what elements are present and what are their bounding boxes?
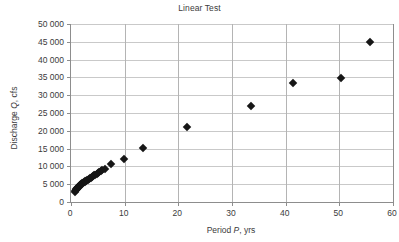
data-point-marker [247,102,255,110]
x-axis-tick [178,202,179,206]
chart-title: Linear Test [0,3,399,13]
gridline-vertical [393,24,394,202]
y-axis-tick [67,77,71,78]
y-axis-tick-label: 10 000 [2,161,64,171]
x-axis-tick-label: 60 [372,208,399,218]
data-point-marker [337,74,345,82]
y-axis-tick-label: 30 000 [2,90,64,100]
gridline-vertical [339,24,340,202]
x-axis-title: Period P, yrs [70,225,392,235]
y-axis-tick [67,24,71,25]
y-axis-tick [67,184,71,185]
data-point-marker [119,155,127,163]
y-axis-tick-label: 35 000 [2,72,64,82]
gridline-vertical [232,24,233,202]
x-axis-tick-label: 0 [50,208,90,218]
y-axis-tick-label: 5 000 [2,179,64,189]
y-axis-tick [67,113,71,114]
x-axis-tick [339,202,340,206]
gridline-vertical [286,24,287,202]
data-point-marker [366,38,374,46]
y-axis-tick [67,149,71,150]
data-point-marker [183,122,191,130]
x-axis-tick-label: 30 [211,208,251,218]
x-axis-tick-label: 10 [104,208,144,218]
x-axis-title-suffix: , yrs [239,225,255,235]
x-axis-tick [71,202,72,206]
gridline-vertical [178,24,179,202]
y-axis-tick-label: 50 000 [2,19,64,29]
x-axis-tick [393,202,394,206]
x-axis-tick [286,202,287,206]
y-axis-tick-label: 25 000 [2,108,64,118]
y-axis-tick [67,42,71,43]
chart-container: Linear Test Period P, yrs Discharge Q, c… [0,0,399,242]
x-axis-tick [125,202,126,206]
x-axis-tick-label: 20 [157,208,197,218]
y-axis-tick-label: 20 000 [2,126,64,136]
x-axis-tick [232,202,233,206]
x-axis-title-prefix: Period [207,225,234,235]
y-axis-tick-label: 15 000 [2,144,64,154]
y-axis-tick [67,166,71,167]
y-axis-tick [67,131,71,132]
y-axis-tick-label: 0 [2,197,64,207]
x-axis-tick-label: 50 [318,208,358,218]
data-point-marker [139,143,147,151]
y-axis-tick [67,60,71,61]
y-axis-tick-label: 40 000 [2,55,64,65]
x-axis-tick-label: 40 [265,208,305,218]
y-axis-tick-label: 45 000 [2,37,64,47]
y-axis-tick [67,95,71,96]
gridline-vertical [125,24,126,202]
plot-area [70,24,393,203]
data-point-marker [289,79,297,87]
